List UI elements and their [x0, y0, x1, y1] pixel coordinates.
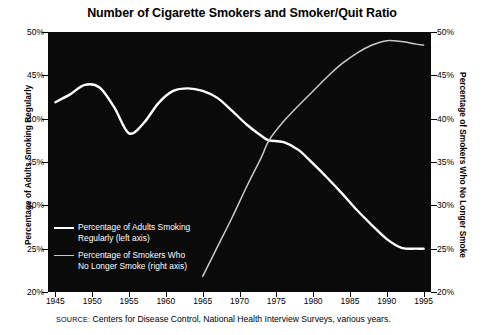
x-tick-label: 1980: [293, 296, 333, 306]
x-tick-label: 1985: [330, 296, 370, 306]
legend-line-swatch: [54, 255, 74, 256]
y-tick-label-left: 50%: [10, 27, 44, 37]
legend-label: Percentage of Smokers Who No Longer Smok…: [78, 250, 254, 271]
legend-line-swatch: [54, 227, 74, 229]
x-tick-label: 1975: [256, 296, 296, 306]
source-text: Centers for Disease Control, National He…: [90, 314, 390, 324]
x-tick-label: 1995: [404, 296, 444, 306]
chart-title: Number of Cigarette Smokers and Smoker/Q…: [0, 6, 484, 20]
legend-item: Percentage of Smokers Who No Longer Smok…: [54, 250, 254, 271]
y-axis-title-right: Percentage of Smokers Who No Longer Smok…: [458, 60, 468, 270]
x-tick-label: 1950: [72, 296, 112, 306]
y-tick-label-right: 50%: [437, 27, 471, 37]
x-tick-label: 1970: [220, 296, 260, 306]
x-tick-label: 1955: [109, 296, 149, 306]
x-tick-label: 1965: [183, 296, 223, 306]
chart-figure: Number of Cigarette Smokers and Smoker/Q…: [0, 0, 484, 335]
x-tick-label: 1990: [367, 296, 407, 306]
legend-item: Percentage of Adults Smoking Regularly (…: [54, 222, 254, 243]
source-label: SOURCE:: [56, 315, 90, 324]
source-note: SOURCE: Centers for Disease Control, Nat…: [56, 314, 391, 324]
y-axis-title-left: Percentage of Adults Smoking Regularly: [23, 65, 33, 265]
chart-legend: Percentage of Adults Smoking Regularly (…: [54, 222, 254, 278]
x-tick-label: 1960: [146, 296, 186, 306]
legend-label: Percentage of Adults Smoking Regularly (…: [78, 222, 254, 243]
x-tick-label: 1945: [35, 296, 75, 306]
